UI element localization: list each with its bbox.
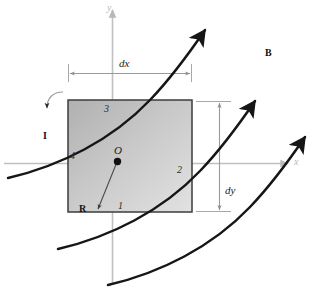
field-vector-label: B xyxy=(265,48,272,58)
position-vector-label: R xyxy=(79,204,86,214)
dy-label: dy xyxy=(225,185,235,196)
side-number-top: 3 xyxy=(104,104,109,114)
side-number-right: 2 xyxy=(177,165,182,175)
current-direction-arrow xyxy=(47,92,63,108)
side-number-left: 4 xyxy=(70,151,75,161)
side-number-bottom: 1 xyxy=(118,201,123,211)
current-label: I xyxy=(43,131,47,141)
origin-dot xyxy=(114,158,121,165)
current-arc xyxy=(47,92,63,108)
y-axis-label: y xyxy=(107,3,111,13)
figure-canvas: y x dx dy B I R O 1 2 3 4 xyxy=(0,0,315,299)
dx-label: dx xyxy=(119,58,129,69)
x-axis-label: x xyxy=(294,157,298,167)
origin-label: O xyxy=(114,145,122,156)
diagram-svg xyxy=(0,0,315,299)
